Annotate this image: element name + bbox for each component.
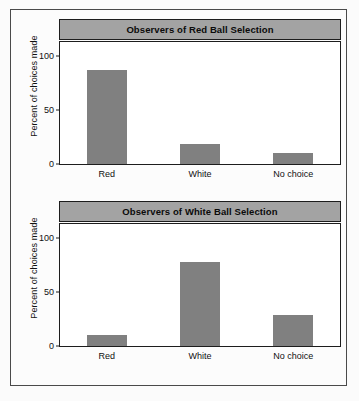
chart-panel-red-ball: Percent of choices made Observers of Red… — [11, 19, 348, 200]
bar-red — [87, 335, 127, 346]
chart-title: Observers of White Ball Selection — [122, 206, 277, 217]
y-tick-label: 0 — [30, 341, 54, 351]
bar-no-choice — [273, 153, 313, 164]
bar-white — [180, 262, 220, 346]
bar-no-choice — [273, 315, 313, 346]
x-tick-label: No choice — [273, 169, 313, 179]
y-axis-title: Percent of choices made — [29, 16, 39, 156]
x-tick-label: Red — [98, 169, 115, 179]
y-tick-label: 0 — [30, 159, 54, 169]
bar-red — [87, 70, 127, 164]
plot-area-white-ball: 050100 — [59, 223, 341, 347]
y-tick-label: 100 — [30, 233, 54, 243]
chart-panel-white-ball: Percent of choices made Observers of Whi… — [11, 201, 348, 382]
plot-area-red-ball: 050100 — [59, 41, 341, 165]
y-tick-mark — [56, 110, 60, 111]
y-tick-mark — [56, 346, 60, 347]
y-tick-mark — [56, 238, 60, 239]
y-axis-title: Percent of choices made — [29, 198, 39, 338]
figure-frame: Percent of choices made Observers of Red… — [10, 9, 347, 386]
y-tick-mark — [56, 292, 60, 293]
chart-title: Observers of Red Ball Selection — [126, 24, 273, 35]
bar-white — [180, 144, 220, 165]
x-tick-label: No choice — [273, 351, 313, 361]
x-tick-label: White — [188, 169, 211, 179]
y-tick-mark — [56, 56, 60, 57]
y-tick-label: 50 — [30, 287, 54, 297]
y-tick-label: 100 — [30, 51, 54, 61]
y-tick-mark — [56, 164, 60, 165]
chart-title-bar-white-ball: Observers of White Ball Selection — [59, 201, 341, 222]
y-tick-label: 50 — [30, 105, 54, 115]
chart-title-bar-red-ball: Observers of Red Ball Selection — [59, 19, 341, 40]
x-tick-label: White — [188, 351, 211, 361]
x-tick-label: Red — [98, 351, 115, 361]
